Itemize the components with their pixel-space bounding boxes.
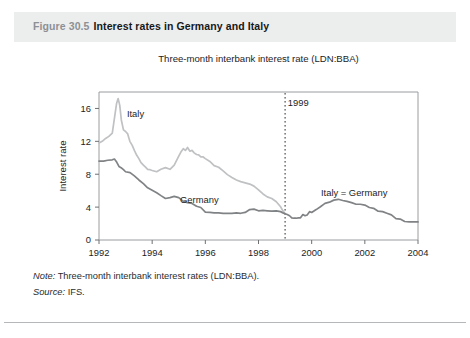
source-label: Source: xyxy=(33,287,65,297)
plot-frame xyxy=(99,92,418,240)
series-line xyxy=(99,159,285,214)
x-tick-label: 1998 xyxy=(248,247,269,258)
chart-annotation: 1999 xyxy=(288,97,309,108)
chart-annotation: Germany xyxy=(180,194,219,205)
note-text: Three-month interbank interest rates (LD… xyxy=(55,271,259,281)
chart-title: Three-month interbank interest rate (LDN… xyxy=(158,53,359,64)
x-tick-label: 1992 xyxy=(89,247,110,258)
bottom-divider xyxy=(4,322,466,323)
chart-annotation: Italy = Germany xyxy=(321,187,388,198)
chart-plot-area: Three-month interbank interest rate (LDN… xyxy=(14,42,456,264)
x-tick-label: 2004 xyxy=(408,247,429,258)
figure-caption: Figure 30.5Interest rates in Germany and… xyxy=(33,20,269,32)
figure-number: Figure 30.5 xyxy=(33,20,90,32)
y-axis-label: Interest rate xyxy=(57,140,68,191)
figure-header-band: Figure 30.5Interest rates in Germany and… xyxy=(14,12,456,42)
y-tick-label: 0 xyxy=(86,234,91,245)
x-axis-label: Year xyxy=(249,262,269,264)
figure-notes: Note: Three-month interbank interest rat… xyxy=(33,269,437,300)
page-title: Interest rates in Germany and Italy xyxy=(94,20,270,32)
chart-annotation: Italy xyxy=(127,108,145,119)
series-line xyxy=(285,199,418,222)
source-text: IFS. xyxy=(65,287,85,297)
x-tick-label: 1996 xyxy=(195,247,216,258)
figure-card: Figure 30.5Interest rates in Germany and… xyxy=(14,12,456,306)
y-tick-label: 12 xyxy=(81,136,91,147)
x-tick-label: 2000 xyxy=(301,247,322,258)
figure-page: Figure 30.5Interest rates in Germany and… xyxy=(0,0,470,338)
note-line: Note: Three-month interbank interest rat… xyxy=(33,269,437,285)
source-line: Source: IFS. xyxy=(33,285,437,301)
x-tick-label: 1994 xyxy=(142,247,163,258)
y-tick-label: 4 xyxy=(86,202,91,213)
interest-rate-line-chart: Three-month interbank interest rate (LDN… xyxy=(14,42,456,264)
x-tick-label: 2002 xyxy=(354,247,375,258)
y-tick-label: 8 xyxy=(86,169,91,180)
y-tick-label: 16 xyxy=(81,103,91,114)
note-label: Note: xyxy=(33,271,55,281)
